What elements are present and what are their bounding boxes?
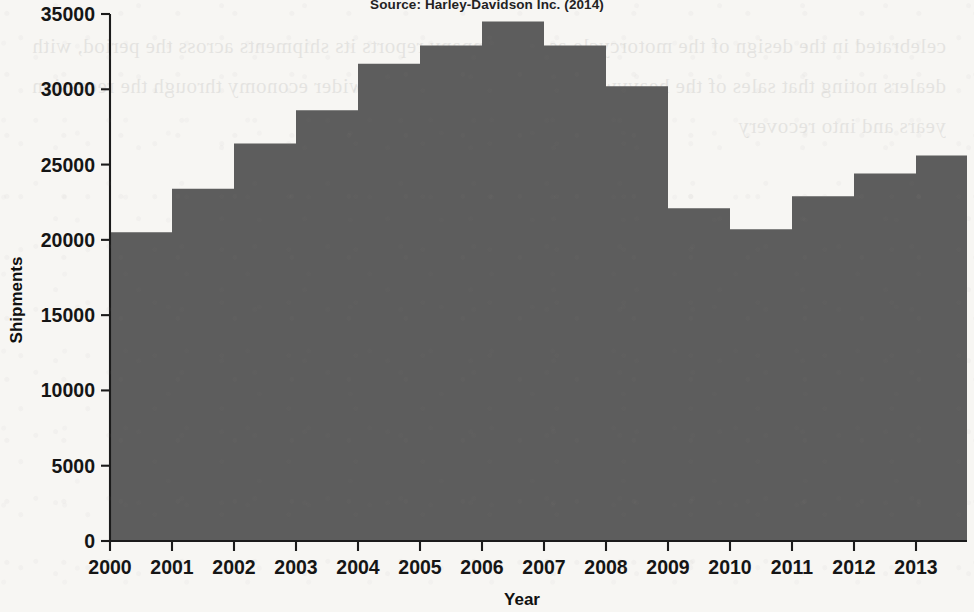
- chart-source-note: Source: Harley-Davidson Inc. (2014): [0, 0, 974, 12]
- x-axis-tick-label: 2001: [150, 556, 194, 578]
- series-step-area: [110, 22, 967, 541]
- x-axis-tick-label: 2002: [212, 556, 256, 578]
- y-axis-tick-label: 15000: [41, 304, 95, 326]
- shipments-step-area-chart: 05000100001500020000250003000035000 2000…: [0, 0, 974, 612]
- x-axis-tick-labels: 2000200120022003200420052006200720082009…: [88, 556, 938, 578]
- x-axis-tick-label: 2012: [832, 556, 876, 578]
- x-axis-tick-label: 2009: [646, 556, 690, 578]
- x-axis-tick-label: 2003: [274, 556, 318, 578]
- y-axis-title: Shipments: [7, 257, 26, 344]
- x-axis-tick-label: 2008: [584, 556, 628, 578]
- step-area-path: [110, 22, 967, 541]
- chart-plot-area: 05000100001500020000250003000035000 2000…: [0, 0, 974, 612]
- x-axis-tick-label: 2005: [398, 556, 442, 578]
- x-axis-tick-label: 2000: [88, 556, 132, 578]
- x-axis-tick-label: 2010: [708, 556, 752, 578]
- y-axis-tick-label: 10000: [41, 379, 95, 401]
- x-axis-tick-label: 2006: [460, 556, 504, 578]
- y-axis-tick-label: 30000: [41, 78, 95, 100]
- y-axis-tick-label: 5000: [52, 455, 96, 477]
- y-axis-tick-label: 20000: [41, 229, 95, 251]
- x-axis-tick-label: 2011: [771, 556, 813, 578]
- x-axis-tick-label: 2007: [522, 556, 565, 578]
- x-axis-tick-label: 2013: [894, 556, 938, 578]
- x-axis-tick-label: 2004: [336, 556, 380, 578]
- y-axis-tick-labels: 05000100001500020000250003000035000: [41, 3, 95, 552]
- y-axis-tick-label: 25000: [41, 154, 95, 176]
- y-axis-tick-label: 0: [84, 530, 95, 552]
- x-axis-title: Year: [504, 590, 540, 609]
